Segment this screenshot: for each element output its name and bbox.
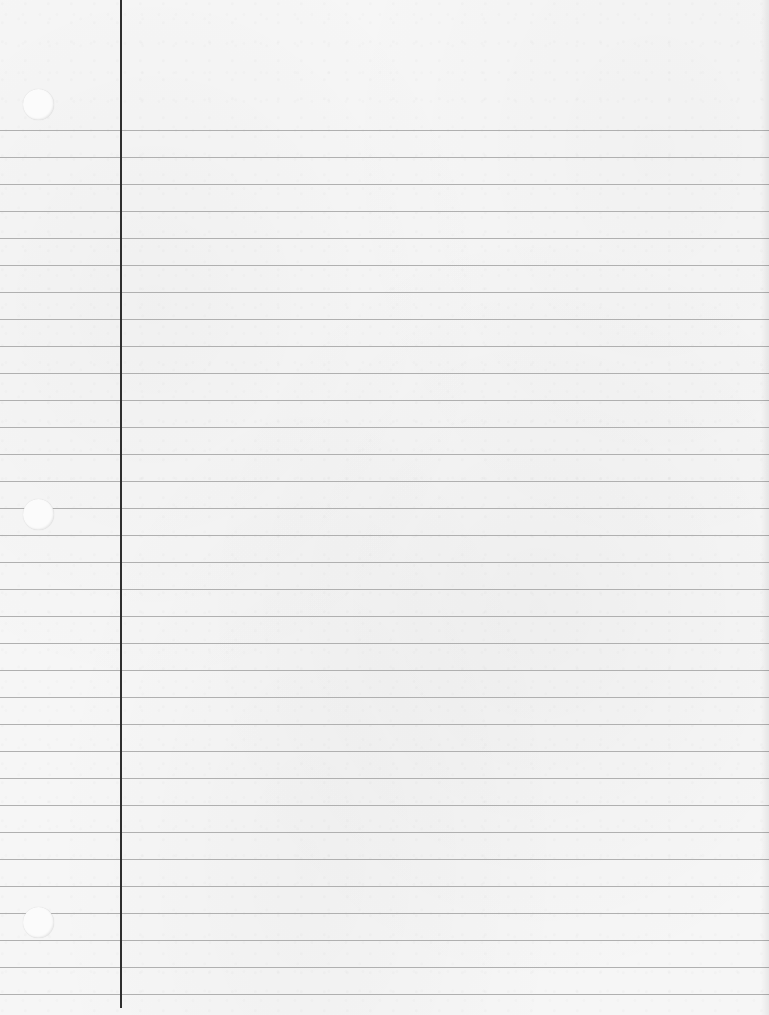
ruled-line <box>0 643 769 644</box>
ruled-line <box>0 994 769 995</box>
binder-hole <box>23 89 54 120</box>
ruled-line <box>0 157 769 158</box>
ruled-line <box>0 967 769 968</box>
ruled-line <box>0 778 769 779</box>
ruled-line <box>0 940 769 941</box>
ruled-line <box>0 292 769 293</box>
ruled-line <box>0 454 769 455</box>
ruled-line <box>0 589 769 590</box>
ruled-line <box>0 859 769 860</box>
ruled-line <box>0 427 769 428</box>
ruled-line <box>0 130 769 131</box>
ruled-line <box>0 265 769 266</box>
page-edge-shadow <box>761 0 769 1015</box>
ruled-line <box>0 373 769 374</box>
ruled-line <box>0 238 769 239</box>
ruled-line <box>0 805 769 806</box>
ruled-line <box>0 832 769 833</box>
binder-hole <box>23 499 54 530</box>
ruled-line <box>0 751 769 752</box>
margin-line <box>120 0 122 1008</box>
ruled-line <box>0 211 769 212</box>
ruled-line <box>0 724 769 725</box>
ruled-line <box>0 184 769 185</box>
ruled-line <box>0 562 769 563</box>
ruled-line <box>0 508 769 509</box>
ruled-line <box>0 913 769 914</box>
ruled-line <box>0 346 769 347</box>
ruled-line <box>0 886 769 887</box>
ruled-line <box>0 319 769 320</box>
ruled-line <box>0 670 769 671</box>
notebook-paper <box>0 0 769 1015</box>
ruled-line <box>0 535 769 536</box>
binder-hole <box>23 907 54 938</box>
ruled-line <box>0 481 769 482</box>
ruled-line <box>0 697 769 698</box>
ruled-line <box>0 616 769 617</box>
ruled-line <box>0 400 769 401</box>
